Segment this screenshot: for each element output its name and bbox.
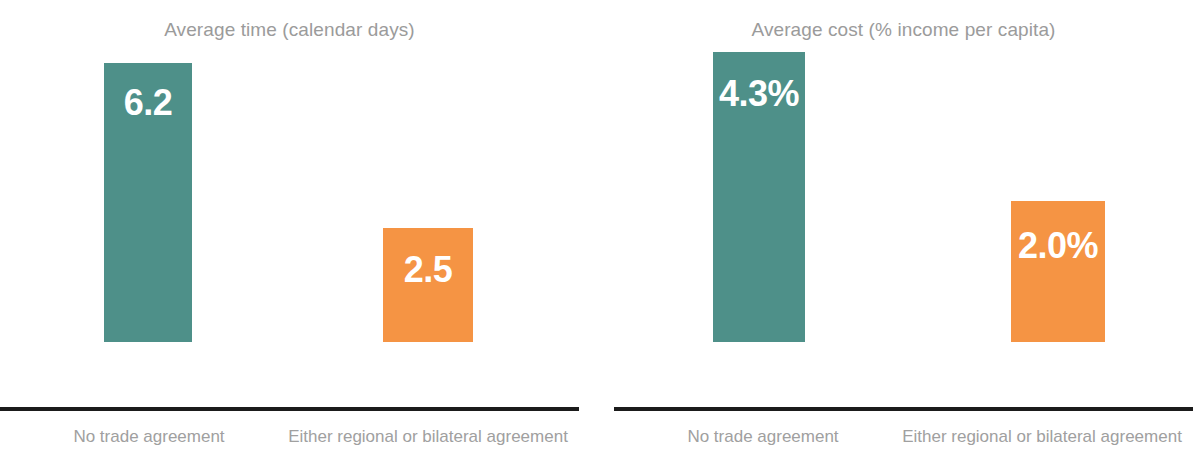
- chart-panel-average-time: Average time (calendar days) 6.2 2.5 No …: [0, 0, 579, 476]
- bar-either-regional-or-bilateral-cost: 2.0%: [1011, 201, 1105, 342]
- plot-area-right: 4.3% 2.0%: [614, 0, 1193, 411]
- chart-figure: Average time (calendar days) 6.2 2.5 No …: [0, 0, 1193, 476]
- bar-value-label: 6.2: [104, 83, 192, 123]
- bar-no-trade-agreement-cost: 4.3%: [713, 52, 805, 342]
- category-label-either-regional-or-bilateral: Either regional or bilateral agreement: [902, 424, 1182, 449]
- plot-area-left: 6.2 2.5: [0, 0, 579, 411]
- x-axis-line-left: [0, 407, 579, 411]
- bar-either-regional-or-bilateral-time: 2.5: [383, 228, 473, 342]
- category-label-either-regional-or-bilateral: Either regional or bilateral agreement: [288, 424, 568, 449]
- bar-no-trade-agreement-time: 6.2: [104, 63, 192, 342]
- bar-value-label: 2.0%: [1011, 226, 1105, 266]
- bar-value-label: 4.3%: [713, 74, 805, 114]
- bar-value-label: 2.5: [383, 250, 473, 290]
- x-axis-line-right: [614, 407, 1193, 411]
- category-label-no-trade-agreement: No trade agreement: [34, 424, 264, 449]
- chart-panel-average-cost: Average cost (% income per capita) 4.3% …: [614, 0, 1193, 476]
- category-label-no-trade-agreement: No trade agreement: [648, 424, 878, 449]
